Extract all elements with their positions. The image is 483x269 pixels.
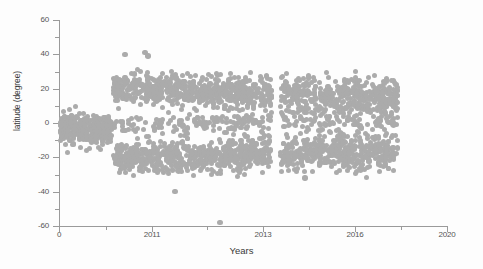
scatter-point (240, 107, 245, 112)
scatter-point (362, 154, 367, 159)
scatter-point (157, 97, 162, 102)
scatter-point (153, 95, 158, 100)
scatter-point (341, 159, 346, 164)
scatter-point (370, 82, 375, 87)
scatter-point (150, 84, 155, 89)
scatter-point (239, 89, 244, 94)
scatter-point (101, 129, 106, 134)
scatter-point (262, 133, 267, 138)
scatter-point (249, 95, 254, 100)
scatter-point (307, 151, 312, 156)
scatter-point (125, 87, 130, 92)
scatter-point (254, 151, 259, 156)
scatter-point (130, 81, 135, 86)
scatter-point (156, 89, 161, 94)
scatter-point (132, 148, 137, 153)
scatter-point (196, 146, 201, 151)
scatter-point (372, 100, 377, 105)
scatter-point (181, 160, 186, 165)
scatter-point (84, 131, 89, 136)
scatter-point (328, 153, 333, 158)
scatter-point (65, 150, 70, 155)
scatter-point (242, 172, 247, 177)
scatter-point (188, 150, 193, 155)
scatter-point (101, 119, 106, 124)
scatter-point (206, 90, 211, 95)
scatter-point (160, 117, 165, 122)
scatter-point (317, 150, 322, 155)
scatter-point (82, 117, 87, 122)
scatter-point (116, 82, 121, 87)
scatter-point (340, 154, 345, 159)
scatter-point (81, 131, 86, 136)
scatter-point (349, 117, 354, 122)
scatter-point (330, 91, 335, 96)
scatter-point (67, 130, 72, 135)
scatter-point (388, 96, 393, 101)
scatter-point (234, 85, 239, 90)
scatter-point (279, 169, 284, 174)
scatter-point (190, 154, 195, 159)
scatter-point (196, 150, 201, 155)
scatter-point (243, 86, 248, 91)
scatter-point (205, 148, 210, 153)
scatter-point (383, 157, 388, 162)
scatter-point (173, 160, 178, 165)
scatter-point (146, 168, 151, 173)
scatter-point (117, 82, 122, 87)
scatter-point (371, 89, 376, 94)
scatter-point (353, 104, 358, 109)
scatter-point (385, 145, 390, 150)
scatter-point (144, 98, 149, 103)
scatter-point (382, 159, 387, 164)
scatter-point (326, 147, 331, 152)
scatter-point (390, 97, 395, 102)
scatter-point (385, 90, 390, 95)
scatter-point (308, 142, 313, 147)
scatter-point (372, 148, 377, 153)
scatter-point (225, 97, 230, 102)
scatter-point (352, 122, 357, 127)
scatter-point (352, 114, 357, 119)
scatter-point (165, 146, 170, 151)
scatter-point (284, 145, 289, 150)
scatter-point (300, 155, 305, 160)
scatter-point (201, 85, 206, 90)
scatter-point (235, 166, 240, 171)
scatter-point (204, 77, 209, 82)
scatter-point (314, 147, 319, 152)
scatter-point (185, 95, 190, 100)
scatter-point (227, 98, 232, 103)
scatter-point (282, 95, 287, 100)
y-tick-label--40: -40 (0, 187, 49, 196)
scatter-point (179, 92, 184, 97)
scatter-point (336, 105, 341, 110)
scatter-point (383, 154, 388, 159)
scatter-point (147, 139, 152, 144)
scatter-point (114, 83, 119, 88)
scatter-point (247, 164, 252, 169)
scatter-point (85, 114, 90, 119)
scatter-point (117, 78, 122, 83)
scatter-point (296, 152, 301, 157)
scatter-point (137, 168, 142, 173)
scatter-point (282, 89, 287, 94)
scatter-point (308, 151, 313, 156)
scatter-point (302, 169, 307, 174)
scatter-point (377, 94, 382, 99)
scatter-point (175, 150, 180, 155)
scatter-point (235, 83, 240, 88)
scatter-point (172, 159, 177, 164)
scatter-point (178, 133, 183, 138)
scatter-point (112, 125, 117, 130)
scatter-point (260, 161, 265, 166)
scatter-point (259, 154, 264, 159)
scatter-point (287, 144, 292, 149)
scatter-point (263, 145, 268, 150)
scatter-point (377, 85, 382, 90)
scatter-point (257, 136, 262, 141)
scatter-point (235, 114, 240, 119)
scatter-point (316, 108, 321, 113)
scatter-point (290, 150, 295, 155)
scatter-point (231, 153, 236, 158)
